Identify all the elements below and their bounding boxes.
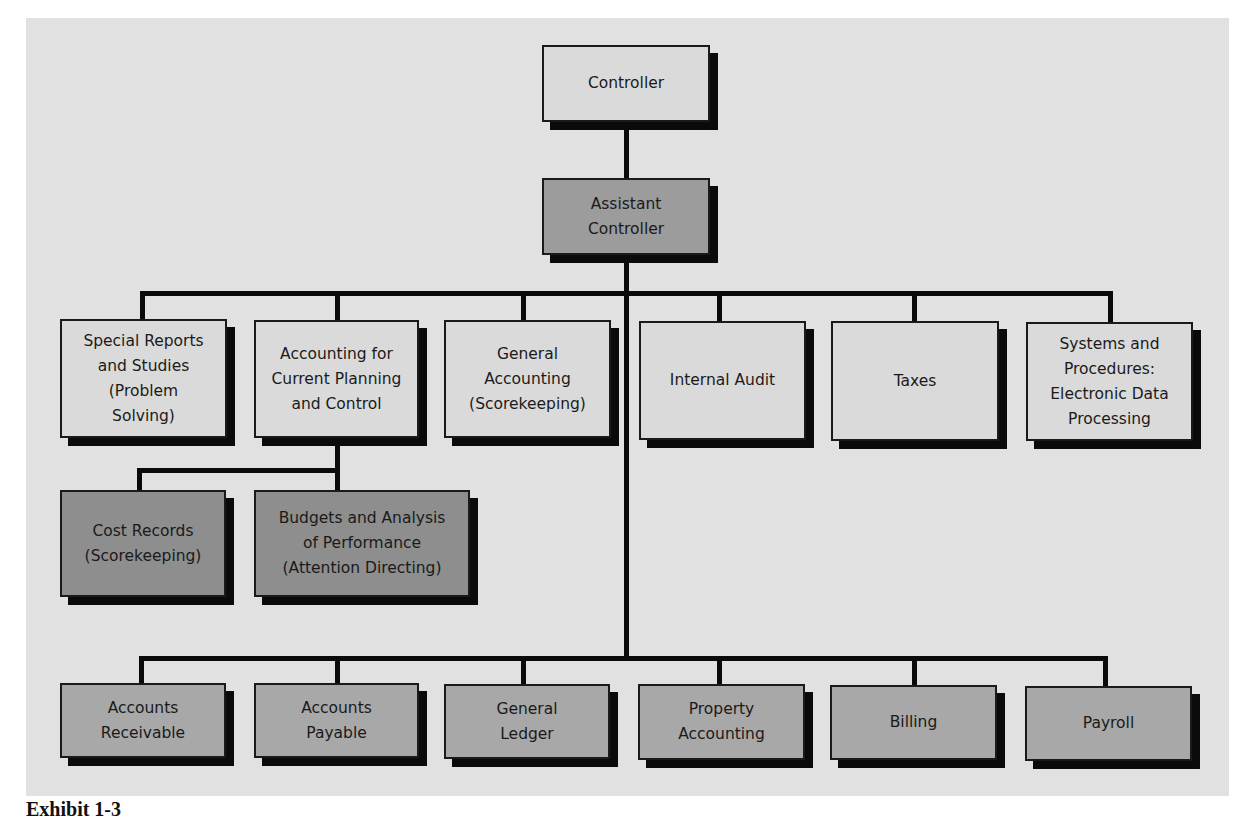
connector-cost-records <box>137 468 142 492</box>
connector-level4-4 <box>717 656 722 686</box>
connector-level4-2 <box>335 656 340 685</box>
connector-controller-assistant <box>624 118 629 180</box>
node-accounts-receivable: Accounts Receivable <box>60 683 226 758</box>
node-systems-procedures: Systems and Procedures: Electronic Data … <box>1026 322 1193 441</box>
connector-level3-6 <box>1108 291 1113 323</box>
connector-planning-down <box>335 440 340 492</box>
connector-level3-bus <box>140 291 1113 296</box>
connector-level3-5 <box>912 291 917 322</box>
node-budgets-analysis: Budgets and Analysis of Performance (Att… <box>254 490 470 597</box>
connector-level3-4 <box>717 291 722 322</box>
node-accounts-payable: Accounts Payable <box>254 683 419 758</box>
connector-level4-bus <box>139 656 1108 661</box>
connector-level4-5 <box>912 656 917 687</box>
node-planning-control: Accounting for Current Planning and Cont… <box>254 320 419 438</box>
node-general-ledger: General Ledger <box>444 684 610 759</box>
connector-level4-6 <box>1103 656 1108 688</box>
node-cost-records: Cost Records (Scorekeeping) <box>60 490 226 597</box>
connector-level3-2 <box>335 291 340 321</box>
node-taxes: Taxes <box>831 321 999 441</box>
node-property-accounting: Property Accounting <box>638 684 805 760</box>
node-billing: Billing <box>830 685 997 760</box>
node-payroll: Payroll <box>1025 686 1192 761</box>
node-assistant-controller: Assistant Controller <box>542 178 710 255</box>
figure-caption: Exhibit 1-3 <box>26 799 121 819</box>
connector-level4-3 <box>521 656 526 686</box>
node-general-accounting: General Accounting (Scorekeeping) <box>444 320 611 438</box>
connector-planning-bus <box>137 468 340 473</box>
connector-main-trunk <box>624 252 629 660</box>
node-internal-audit: Internal Audit <box>639 321 806 440</box>
node-special-reports: Special Reports and Studies (Problem Sol… <box>60 319 227 438</box>
connector-level3-3 <box>521 291 526 321</box>
connector-level3-1 <box>140 291 145 321</box>
node-controller: Controller <box>542 45 710 122</box>
connector-level4-1 <box>139 656 144 685</box>
